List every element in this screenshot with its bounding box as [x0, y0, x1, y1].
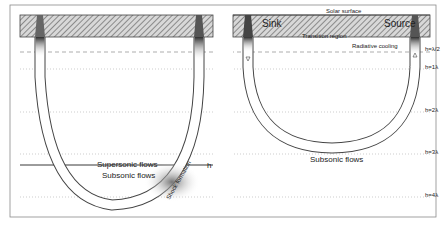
svg-text:h=1λ: h=1λ: [425, 64, 438, 70]
svg-text:h=4λ: h=4λ: [425, 192, 438, 198]
sink-label: Sink: [262, 18, 282, 29]
svg-text:h=3λ: h=3λ: [425, 149, 438, 155]
solar-surface-label: Solar surface: [326, 8, 362, 14]
subsonic-label: Subsonic flows: [310, 155, 363, 164]
radiative-cooling-label: Radiative cooling: [352, 43, 398, 49]
hs-label: h: [207, 161, 211, 170]
height-labels: h=λ/2 h=1λ h=2λ h=3λ h=4λ: [425, 46, 441, 198]
supersonic-label: Supersonic flows: [97, 160, 157, 169]
svg-text:h=2λ: h=2λ: [425, 107, 438, 113]
svg-text:h=λ/2: h=λ/2: [425, 46, 441, 52]
panel-subsonic: Source Sink Solar surface Transition reg…: [233, 8, 430, 197]
siphon-flow-diagram: Source Sink Solar surface Transition reg…: [0, 0, 442, 227]
source-label: Source: [384, 18, 416, 29]
subsonic-label-left: Subsonic flows: [102, 171, 155, 180]
panel-supersonic: Supersonic flows Subsonic flows h Shock …: [20, 15, 213, 205]
transition-region-label: Transition region: [302, 33, 346, 39]
